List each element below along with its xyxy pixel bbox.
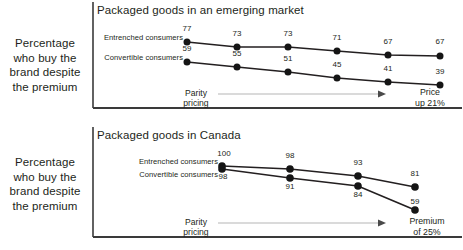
chart-panel-canada: Percentage who buy the brand despite the… <box>0 125 463 250</box>
parity-pricing-label-bottom: Parity pricing <box>174 217 218 237</box>
parity-pricing-arrow-bottom <box>218 220 386 227</box>
chart-panel-emerging-market: Percentage who buy the brand despite the… <box>0 0 463 118</box>
data-point <box>411 206 419 214</box>
price-premium-line-2: up 21% <box>402 98 458 109</box>
point-label: 59 <box>175 44 199 53</box>
data-point <box>286 165 294 173</box>
side-axis-label-line-1: Percentage <box>2 36 88 51</box>
legend-convertible-bottom: Convertible consumers <box>122 170 218 179</box>
data-point <box>285 44 292 51</box>
data-point <box>285 69 292 76</box>
parity-pricing-line-2: pricing <box>174 98 218 108</box>
series-line-convertible-top <box>184 59 444 89</box>
point-label: 77 <box>175 24 199 33</box>
price-premium-label-bottom: Premium of 25% <box>396 216 458 237</box>
point-label: 71 <box>325 33 349 42</box>
chart-plot-area-bottom: Packaged goods in Canada <box>90 125 463 250</box>
parity-pricing-line-2: pricing <box>174 227 218 237</box>
point-label: 100 <box>211 149 237 158</box>
point-label: 51 <box>276 54 300 63</box>
parity-pricing-line-1: Parity <box>174 217 218 227</box>
data-point <box>334 48 341 55</box>
point-label: 39 <box>428 67 452 76</box>
price-premium-line-2: of 25% <box>396 227 458 238</box>
parity-pricing-label-top: Parity pricing <box>174 88 218 108</box>
point-label: 98 <box>211 172 235 181</box>
legend-entrenched-bottom: Entrenched consumers <box>122 157 218 166</box>
series-line-entrenched-top <box>184 39 444 60</box>
point-label: 55 <box>225 49 249 58</box>
point-label: 41 <box>376 64 400 73</box>
point-label: 91 <box>278 182 302 191</box>
data-point <box>234 64 241 71</box>
chart-plot-area-top: Packaged goods in an emerging market <box>90 0 463 118</box>
side-axis-label-line-3: brand despite <box>2 65 88 80</box>
legend-entrenched-top: Entrenched consumers <box>87 33 183 42</box>
point-label: 98 <box>278 151 302 160</box>
series-line-entrenched-bottom <box>218 162 419 191</box>
point-label: 73 <box>276 29 300 38</box>
data-point <box>385 52 392 59</box>
price-premium-line-1: Price <box>402 87 458 98</box>
side-axis-label-line-4: the premium <box>2 199 88 214</box>
price-premium-label-top: Price up 21% <box>402 87 458 108</box>
side-axis-label-line-3: brand despite <box>2 184 88 199</box>
side-axis-label-top: Percentage who buy the brand despite the… <box>2 36 88 94</box>
point-label: 81 <box>403 169 427 178</box>
price-premium-line-1: Premium <box>396 216 458 227</box>
side-axis-label-line-1: Percentage <box>2 155 88 170</box>
point-label: 67 <box>376 37 400 46</box>
data-point <box>334 75 341 82</box>
data-point <box>354 182 362 190</box>
data-point <box>184 59 191 66</box>
point-label: 59 <box>403 197 427 206</box>
side-axis-label-bottom: Percentage who buy the brand despite the… <box>2 155 88 213</box>
data-point <box>354 172 362 180</box>
parity-pricing-line-1: Parity <box>174 88 218 98</box>
point-label: 73 <box>225 29 249 38</box>
point-label: 93 <box>346 158 370 167</box>
data-point <box>286 174 294 182</box>
parity-pricing-arrow-top <box>218 91 386 98</box>
data-point <box>385 79 392 86</box>
legend-convertible-top: Convertible consumers <box>87 53 183 62</box>
point-label: 84 <box>346 190 370 199</box>
data-point <box>411 183 419 191</box>
data-point <box>437 53 444 60</box>
point-label: 67 <box>428 37 452 46</box>
side-axis-label-line-4: the premium <box>2 80 88 95</box>
side-axis-label-line-2: who buy the <box>2 170 88 185</box>
side-axis-label-line-2: who buy the <box>2 51 88 66</box>
point-label: 45 <box>325 60 349 69</box>
